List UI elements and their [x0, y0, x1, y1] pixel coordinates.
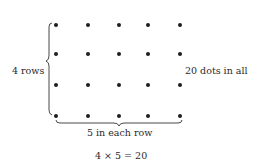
brace-lines: [0, 0, 255, 168]
rows-label: 4 rows: [12, 66, 44, 76]
equation: 4 × 5 = 20: [95, 151, 147, 161]
cols-brace: [56, 120, 182, 126]
total-label: 20 dots in all: [185, 66, 248, 76]
rows-brace: [46, 23, 52, 115]
cols-label: 5 in each row: [87, 128, 152, 138]
